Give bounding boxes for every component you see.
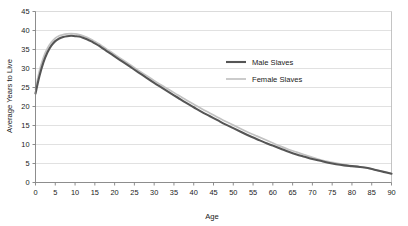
y-tick-label: 0: [25, 178, 29, 187]
x-tick-label: 80: [348, 188, 356, 197]
x-tick-label: 75: [328, 188, 336, 197]
x-tick-label: 50: [229, 188, 237, 197]
y-tick-label: 5: [25, 159, 29, 168]
x-tick-label: 40: [190, 188, 198, 197]
x-axis-title: Age: [205, 212, 219, 221]
y-axis-title: Average Years to Live: [5, 59, 14, 133]
x-tick-label: 35: [170, 188, 178, 197]
legend-label-female-slaves: Female Slaves: [252, 75, 302, 84]
x-tick-label: 15: [91, 188, 99, 197]
y-tick-label: 25: [21, 83, 29, 92]
x-tick-label: 65: [288, 188, 296, 197]
legend-label-male-slaves: Male Slaves: [252, 58, 294, 67]
line-chart: 051015202530354045 051015202530354045505…: [0, 0, 408, 226]
x-tick-label: 10: [71, 188, 79, 197]
y-tick-label: 15: [21, 121, 29, 130]
y-tick-label: 30: [21, 64, 29, 73]
chart-container: 051015202530354045 051015202530354045505…: [0, 0, 408, 226]
y-tick-label: 40: [21, 26, 29, 35]
x-tick-label: 55: [249, 188, 257, 197]
x-tick-label: 20: [110, 188, 118, 197]
y-tick-label: 10: [21, 140, 29, 149]
x-tick-label: 90: [387, 188, 395, 197]
x-tick-label: 25: [130, 188, 138, 197]
x-tick-label: 60: [269, 188, 277, 197]
x-tick-label: 85: [368, 188, 376, 197]
y-tick-label: 20: [21, 102, 29, 111]
y-tick-label: 45: [21, 7, 29, 16]
x-tick-label: 70: [308, 188, 316, 197]
x-tick-label: 30: [150, 188, 158, 197]
x-tick-label: 45: [209, 188, 217, 197]
x-tick-label: 0: [33, 188, 37, 197]
y-tick-label: 35: [21, 45, 29, 54]
x-tick-label: 5: [53, 188, 57, 197]
